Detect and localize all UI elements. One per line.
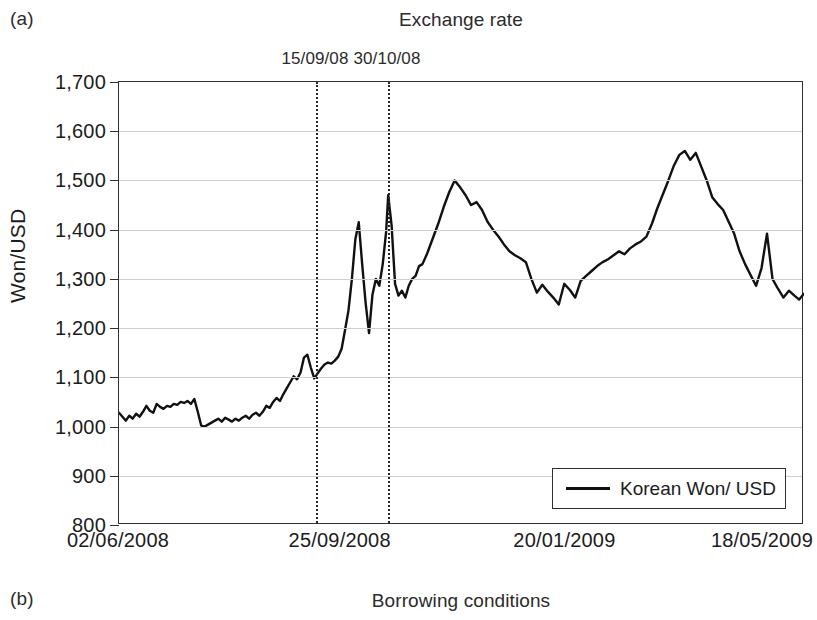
gridline: [119, 377, 802, 378]
y-tick-label: 1,700: [55, 71, 106, 94]
chart-plot-area: 1,7001,6001,5001,4001,3001,2001,1001,000…: [118, 81, 803, 524]
y-tick-label: 1,400: [55, 218, 106, 241]
event-marker-label: 30/10/08: [353, 49, 420, 69]
panel-b-letter: (b): [10, 588, 34, 610]
event-marker-line: [316, 82, 318, 523]
y-tick-mark: [110, 525, 119, 526]
panel-a-exchange-rate: (a) Exchange rate Won/USD 1,7001,6001,50…: [0, 0, 817, 565]
x-tick-label: 18/05/2009: [711, 529, 813, 552]
y-tick-mark: [110, 279, 119, 280]
y-tick-label: 1,200: [55, 317, 106, 340]
y-tick-label: 900: [72, 464, 106, 487]
event-marker-line: [388, 82, 390, 523]
gridline: [119, 131, 802, 132]
y-axis-title: Won/USD: [6, 209, 30, 303]
y-tick-mark: [110, 427, 119, 428]
y-tick-mark: [110, 476, 119, 477]
chart-legend: Korean Won/ USD: [552, 468, 786, 509]
y-tick-mark: [110, 180, 119, 181]
event-marker-label: 15/09/08: [282, 49, 349, 69]
legend-label: Korean Won/ USD: [620, 478, 776, 500]
panel-a-letter: (a): [10, 8, 34, 30]
panel-b-borrowing-conditions: (b) Borrowing conditions: [0, 566, 817, 620]
x-tick-label: 25/09/2008: [289, 529, 391, 552]
panel-b-title: Borrowing conditions: [118, 590, 804, 612]
gridline: [119, 328, 802, 329]
y-tick-mark: [110, 131, 119, 132]
gridline: [119, 279, 802, 280]
y-tick-label: 1,300: [55, 267, 106, 290]
y-tick-label: 1,000: [55, 415, 106, 438]
y-tick-label: 1,500: [55, 169, 106, 192]
x-tick-label: 02/06/2008: [67, 529, 169, 552]
y-tick-mark: [110, 377, 119, 378]
y-tick-mark: [110, 328, 119, 329]
x-tick-label: 20/01/2009: [513, 529, 615, 552]
y-tick-mark: [110, 230, 119, 231]
y-tick-label: 1,100: [55, 366, 106, 389]
legend-line-swatch: [566, 487, 610, 490]
panel-a-title: Exchange rate: [118, 9, 804, 31]
series-line-korean-won-usd: [119, 82, 804, 525]
gridline: [119, 180, 802, 181]
gridline: [119, 427, 802, 428]
gridline: [119, 230, 802, 231]
y-tick-mark: [110, 82, 119, 83]
y-tick-label: 1,600: [55, 120, 106, 143]
